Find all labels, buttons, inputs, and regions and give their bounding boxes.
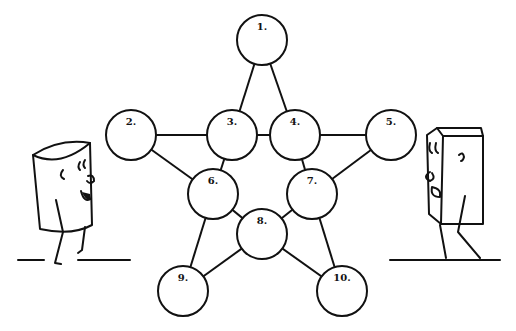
node-label: 1. bbox=[257, 21, 267, 32]
node-2[interactable]: 2. bbox=[106, 110, 156, 160]
node-label: 10. bbox=[333, 272, 350, 283]
node-7[interactable]: 7. bbox=[287, 169, 337, 219]
node-1[interactable]: 1. bbox=[237, 15, 287, 65]
node-5[interactable]: 5. bbox=[366, 110, 416, 160]
node-label: 4. bbox=[290, 116, 300, 127]
node-label: 7. bbox=[307, 175, 317, 186]
node-label: 8. bbox=[257, 215, 267, 226]
nodes: 1.2.3.4.5.6.7.8.9.10. bbox=[106, 15, 416, 316]
node-9[interactable]: 9. bbox=[158, 266, 208, 316]
node-4[interactable]: 4. bbox=[270, 110, 320, 160]
cylinder-character bbox=[18, 142, 130, 264]
node-6[interactable]: 6. bbox=[188, 169, 238, 219]
node-label: 2. bbox=[126, 116, 136, 127]
node-label: 5. bbox=[386, 116, 396, 127]
node-label: 9. bbox=[178, 272, 188, 283]
node-8[interactable]: 8. bbox=[237, 209, 287, 259]
node-10[interactable]: 10. bbox=[317, 266, 367, 316]
node-label: 3. bbox=[227, 116, 237, 127]
star-diagram: 1.2.3.4.5.6.7.8.9.10. bbox=[0, 0, 516, 331]
node-3[interactable]: 3. bbox=[207, 110, 257, 160]
node-label: 6. bbox=[208, 175, 218, 186]
